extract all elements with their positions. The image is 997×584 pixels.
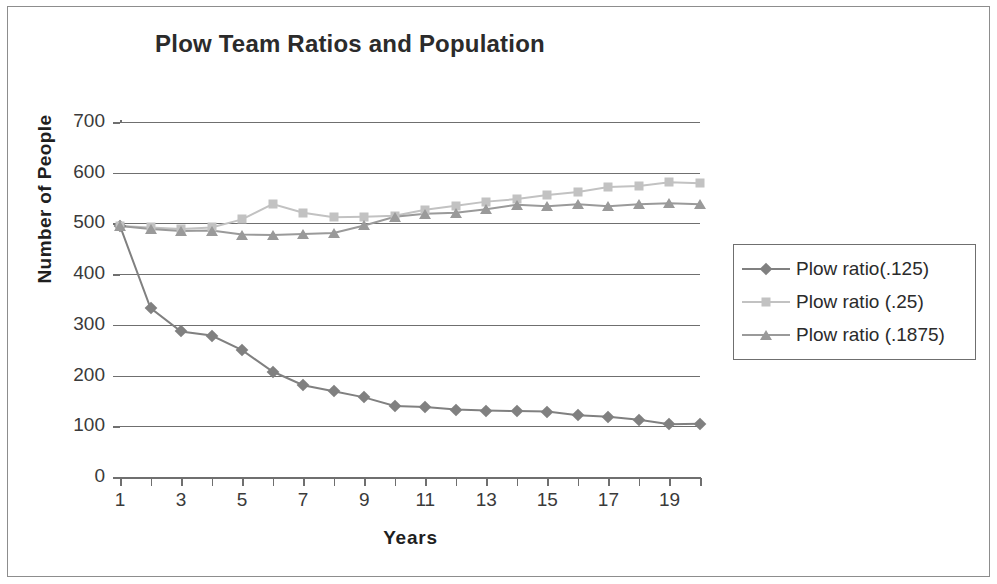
x-axis-tick-label: 3 <box>161 489 201 511</box>
data-point-marker <box>389 212 401 222</box>
series-lines <box>120 122 700 477</box>
y-axis-tick-label: 600 <box>45 161 105 183</box>
x-axis-tick <box>639 478 641 486</box>
chart-legend: Plow ratio(.125)Plow ratio (.25)Plow rat… <box>733 244 976 360</box>
x-axis-tick <box>517 478 519 486</box>
x-axis-tick <box>364 478 366 486</box>
legend-item[interactable]: Plow ratio(.125) <box>740 252 969 285</box>
chart-title: Plow Team Ratios and Population <box>0 30 700 58</box>
data-point-marker <box>358 220 370 230</box>
x-axis-tick <box>669 478 671 486</box>
data-point-marker <box>541 201 553 211</box>
data-point-marker <box>543 191 552 200</box>
data-point-marker <box>297 229 309 239</box>
x-axis-tick <box>700 478 702 486</box>
legend-item-label: Plow ratio(.125) <box>796 258 929 280</box>
legend-square-icon <box>740 293 792 311</box>
x-axis-tick <box>547 478 549 486</box>
legend-marker <box>760 262 773 275</box>
legend-item[interactable]: Plow ratio (.25) <box>740 285 969 318</box>
x-axis-tick <box>120 478 122 486</box>
data-point-marker <box>633 199 645 209</box>
data-point-marker <box>663 198 675 208</box>
x-axis-tick <box>486 478 488 486</box>
legend-marker <box>762 297 771 306</box>
data-point-marker <box>145 224 157 234</box>
data-point-marker <box>236 230 248 240</box>
y-axis-tick-label: 300 <box>45 313 105 335</box>
data-point-marker <box>114 221 126 231</box>
y-axis-tick-label: 0 <box>45 465 105 487</box>
data-point-marker <box>268 200 277 209</box>
x-axis-tick <box>181 478 183 486</box>
x-axis-tick <box>303 478 305 486</box>
x-axis-line <box>120 477 701 479</box>
legend-triangle-icon <box>740 326 792 344</box>
x-axis-tick <box>151 478 153 486</box>
plot-area <box>120 122 700 477</box>
x-axis-tick-label: 7 <box>283 489 323 511</box>
data-point-marker <box>175 226 187 236</box>
x-axis-tick <box>608 478 610 486</box>
y-axis-tick-label: 700 <box>45 110 105 132</box>
x-axis-tick <box>334 478 336 486</box>
x-axis-tick-label: 15 <box>527 489 567 511</box>
data-point-marker <box>511 200 523 210</box>
data-point-marker <box>572 199 584 209</box>
x-axis-tick <box>456 478 458 486</box>
data-point-marker <box>328 228 340 238</box>
x-axis-tick-label: 19 <box>649 489 689 511</box>
x-axis-tick-label: 1 <box>100 489 140 511</box>
legend-marker <box>760 330 772 340</box>
data-point-marker <box>604 182 613 191</box>
y-axis-tick-label: 500 <box>45 211 105 233</box>
x-axis-tick <box>273 478 275 486</box>
data-point-marker <box>665 178 674 187</box>
data-point-marker <box>634 181 643 190</box>
x-axis-tick <box>395 478 397 486</box>
data-point-marker <box>267 230 279 240</box>
data-point-marker <box>573 187 582 196</box>
x-axis-tick <box>242 478 244 486</box>
x-axis-tick-label: 5 <box>222 489 262 511</box>
data-point-marker <box>480 204 492 214</box>
data-point-marker <box>299 208 308 217</box>
data-point-marker <box>329 213 338 222</box>
chart-page: Plow Team Ratios and Population Number o… <box>0 0 997 584</box>
data-point-marker <box>206 226 218 236</box>
x-axis-tick <box>578 478 580 486</box>
x-axis-title: Years <box>120 527 701 549</box>
legend-diamond-icon <box>740 260 792 278</box>
legend-item-label: Plow ratio (.25) <box>796 291 924 313</box>
x-axis-tick <box>212 478 214 486</box>
data-point-marker <box>450 208 462 218</box>
x-axis-tick-label: 11 <box>405 489 445 511</box>
data-point-marker <box>696 179 705 188</box>
series-line <box>120 226 700 424</box>
x-axis-tick <box>425 478 427 486</box>
data-point-marker <box>238 215 247 224</box>
legend-item-label: Plow ratio (.1875) <box>796 324 945 346</box>
data-point-marker <box>694 199 706 209</box>
y-axis-tick-label: 400 <box>45 262 105 284</box>
data-point-marker <box>602 201 614 211</box>
y-axis-tick-label: 200 <box>45 364 105 386</box>
x-axis-tick-label: 13 <box>466 489 506 511</box>
legend-item[interactable]: Plow ratio (.1875) <box>740 318 969 351</box>
x-axis-tick-label: 9 <box>344 489 384 511</box>
x-axis-tick-label: 17 <box>588 489 628 511</box>
y-axis-tick-label: 100 <box>45 414 105 436</box>
data-point-marker <box>419 209 431 219</box>
